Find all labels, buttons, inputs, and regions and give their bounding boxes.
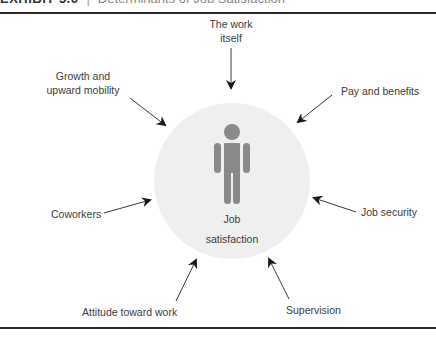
diagram-canvas — [0, 0, 436, 337]
arrow-attitude — [176, 260, 196, 301]
job-satisfaction-label: Job satisfaction — [192, 209, 272, 249]
factor-attitude-toward-work: Attitude toward work — [82, 305, 177, 319]
arrow-growth — [130, 98, 165, 125]
factor-label-line2: upward mobility — [38, 83, 128, 97]
factor-label: Pay and benefits — [341, 84, 419, 98]
factor-job-security: Job security — [361, 205, 417, 219]
factor-label: Supervision — [286, 303, 341, 317]
factor-growth-upward-mobility: Growth and upward mobility — [38, 69, 128, 97]
bottom-rule — [0, 327, 436, 329]
factor-label-line2: itself — [191, 31, 271, 45]
factor-pay-benefits: Pay and benefits — [341, 84, 419, 98]
factor-supervision: Supervision — [286, 303, 341, 317]
factor-label: Job security — [361, 205, 417, 219]
center-label-line1: Job — [192, 209, 272, 229]
arrow-pay-benefits — [298, 95, 332, 122]
factor-coworkers: Coworkers — [51, 207, 101, 221]
factor-label: Attitude toward work — [82, 305, 177, 319]
arrow-coworkers — [104, 200, 150, 213]
factor-work-itself: The work itself — [191, 17, 271, 45]
factor-label-line1: The work — [191, 17, 271, 31]
arrow-supervision — [269, 259, 289, 299]
center-label-line2: satisfaction — [192, 229, 272, 249]
factor-label: Coworkers — [51, 207, 101, 221]
factor-label-line1: Growth and — [38, 69, 128, 83]
arrow-job-security — [314, 198, 356, 212]
